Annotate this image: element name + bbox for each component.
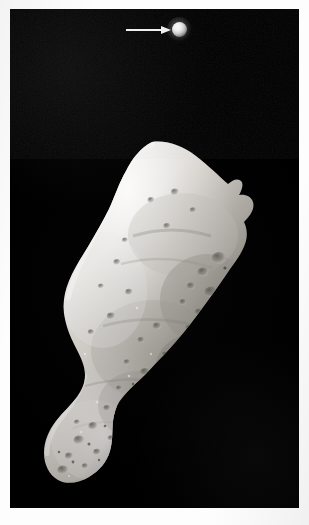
moon-dactyl: [172, 22, 187, 37]
arrow-head: [161, 26, 171, 34]
asteroid-surface: [33, 140, 268, 495]
arrow-shaft: [126, 29, 164, 31]
asteroid-ida: [33, 140, 268, 495]
arrow-right-icon: [126, 25, 174, 36]
photo-page: [0, 0, 309, 525]
photograph-frame: [10, 9, 299, 508]
